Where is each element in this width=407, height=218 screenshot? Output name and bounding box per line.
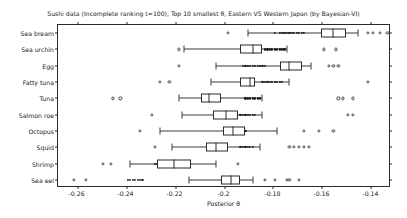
whisker-cap — [215, 160, 216, 167]
outlier-point — [109, 162, 112, 165]
whisker-cap — [286, 46, 287, 53]
y-tick-mark-right — [389, 130, 392, 131]
box-iqr — [201, 94, 221, 103]
y-tick-mark — [55, 98, 58, 99]
outlier-point — [298, 146, 301, 149]
whisker-cap — [247, 30, 248, 37]
box-iqr — [280, 61, 302, 70]
y-tick-label-sea-urchin: Sea urchin — [21, 46, 54, 53]
whisker-cap — [171, 144, 172, 151]
outlier-point — [111, 97, 114, 100]
outlier-point — [263, 178, 266, 181]
x-tick-mark-top — [77, 22, 78, 25]
outlier-point — [288, 146, 291, 149]
outlier-point — [386, 32, 389, 35]
outlier-point — [337, 97, 340, 100]
outlier-point — [293, 146, 296, 149]
whisker-cap — [179, 95, 180, 102]
median-line — [233, 126, 234, 135]
whisker-cap — [159, 127, 160, 134]
outlier-point — [332, 129, 335, 132]
outlier-point — [334, 48, 337, 51]
data-point — [259, 97, 261, 99]
y-tick-mark-right — [389, 33, 392, 34]
data-point — [281, 81, 283, 83]
outlier-point — [273, 178, 276, 181]
plot-area: Sea breamSea urchinEggFatty tunaTunaSalm… — [57, 24, 390, 187]
median-line — [250, 78, 251, 87]
x-tick-mark — [224, 186, 225, 189]
y-tick-label-tuna: Tuna — [40, 95, 54, 102]
x-tick-mark-top — [273, 22, 274, 25]
median-line — [333, 29, 334, 38]
x-axis-label: Posterior θ — [57, 200, 390, 207]
whisker-cap — [262, 95, 263, 102]
data-point — [252, 146, 254, 148]
whisker-cap — [188, 176, 189, 183]
outlier-point — [151, 113, 154, 116]
x-tick-mark — [273, 186, 274, 189]
x-tick-mark — [175, 186, 176, 189]
outlier-point — [302, 129, 305, 132]
whisker-cap — [252, 176, 253, 183]
box-iqr — [206, 143, 228, 152]
chart-figure: Sushi data (Incomplete ranking t=100), T… — [0, 0, 407, 218]
chart-title: Sushi data (Incomplete ranking t=100), T… — [0, 10, 407, 17]
y-tick-mark — [55, 82, 58, 83]
outlier-point — [178, 64, 181, 67]
outlier-point — [85, 178, 88, 181]
outlier-point — [138, 129, 141, 132]
y-tick-mark — [55, 130, 58, 131]
median-line — [252, 45, 253, 54]
data-point — [141, 179, 143, 181]
outlier-point — [102, 162, 105, 165]
outlier-point — [307, 146, 310, 149]
outlier-point — [72, 178, 75, 181]
x-tick-label: -0.16 — [313, 190, 329, 197]
median-line — [208, 94, 209, 103]
y-tick-label-egg: Egg — [42, 62, 54, 69]
outlier-point — [366, 80, 369, 83]
x-tick-mark-top — [322, 22, 323, 25]
y-tick-mark-right — [389, 163, 392, 164]
x-tick-mark-top — [224, 22, 225, 25]
data-point — [254, 114, 256, 116]
outlier-point — [327, 64, 330, 67]
median-line — [215, 143, 216, 152]
y-tick-mark — [55, 114, 58, 115]
x-tick-label: -0.2 — [217, 190, 229, 197]
outlier-point — [302, 146, 305, 149]
whisker-cap — [311, 62, 312, 69]
y-tick-label-shrimp: Shrimp — [32, 160, 54, 167]
median-line — [230, 175, 231, 184]
y-tick-mark-right — [389, 114, 392, 115]
whisker-cap — [184, 46, 185, 53]
x-tick-label: -0.18 — [264, 190, 280, 197]
box-iqr — [223, 126, 245, 135]
outlier-point — [168, 80, 171, 83]
whisker-cap — [262, 111, 263, 118]
x-tick-mark-top — [371, 22, 372, 25]
whisker-cap — [215, 62, 216, 69]
x-tick-label: -0.22 — [167, 190, 183, 197]
outlier-point — [227, 32, 230, 35]
y-tick-mark — [55, 65, 58, 66]
y-tick-label-salmon-roe: Salmon roe — [19, 111, 54, 118]
outlier-point — [298, 178, 301, 181]
y-tick-label-squid: Squid — [37, 144, 54, 151]
y-tick-mark — [55, 33, 58, 34]
outlier-point — [153, 146, 156, 149]
data-point — [283, 48, 285, 50]
y-tick-label-octopus: Octopus — [28, 127, 54, 134]
y-tick-mark-right — [389, 179, 392, 180]
y-tick-mark-right — [389, 82, 392, 83]
median-line — [225, 110, 226, 119]
y-tick-mark — [55, 147, 58, 148]
y-tick-mark-right — [389, 147, 392, 148]
whisker-cap — [289, 79, 290, 86]
whisker-line — [160, 130, 278, 131]
outlier-point — [178, 48, 181, 51]
outlier-point — [158, 80, 161, 83]
outlier-point — [332, 64, 335, 67]
outlier-point — [366, 32, 369, 35]
